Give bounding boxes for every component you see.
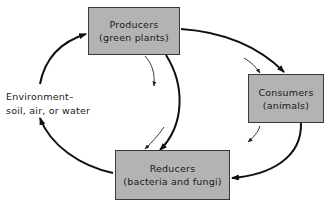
small-arrow-to-consumers — [244, 58, 260, 73]
consumers-box: Consumers (animals) — [248, 74, 324, 123]
arrow-consumers-to-reducers — [232, 123, 301, 178]
environment-line-2: soil, air, or water — [6, 104, 90, 118]
environment-line-1: Environment– — [6, 90, 90, 104]
arrow-reducers-to-environment — [40, 118, 113, 173]
consumers-title: Consumers — [258, 86, 313, 99]
environment-label: Environment– soil, air, or water — [6, 90, 90, 118]
small-arrow-producers — [145, 56, 154, 86]
small-arrow-from-consumers — [248, 126, 260, 142]
arrow-producers-to-consumers — [181, 29, 284, 72]
consumers-subtitle: (animals) — [263, 99, 309, 112]
producers-subtitle: (green plants) — [99, 31, 169, 44]
food-cycle-diagram: Producers (green plants) Consumers (anim… — [0, 0, 329, 207]
reducers-box: Reducers (bacteria and fungi) — [115, 150, 230, 200]
reducers-title: Reducers — [150, 162, 196, 175]
arrow-environment-to-producers — [40, 34, 86, 84]
small-arrow-to-reducers — [145, 127, 164, 149]
producers-box: Producers (green plants) — [88, 7, 180, 55]
producers-title: Producers — [110, 18, 159, 31]
reducers-subtitle: (bacteria and fungi) — [123, 175, 221, 188]
arrow-producers-to-reducers — [160, 55, 180, 150]
